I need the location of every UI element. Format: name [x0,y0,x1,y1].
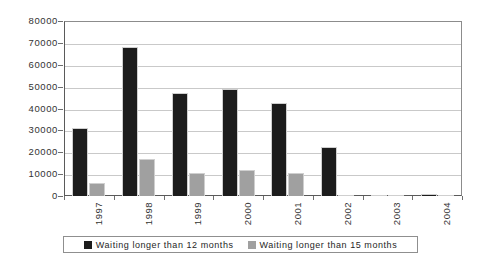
y-tick-label: 30000 [0,125,58,135]
bar-1997-series-1 [72,128,88,196]
x-tick-label-2001: 2001 [293,202,303,225]
x-tick-mark [164,196,165,200]
y-tick-label: 60000 [0,60,58,70]
bar-1998-series-1 [122,47,138,196]
x-tick-label-2002: 2002 [343,202,353,225]
y-tick-mark [58,43,63,44]
x-tick-label-1997: 1997 [94,202,104,225]
bar-2000-series-1 [222,89,238,196]
caption-fragment [6,261,226,267]
legend-entry-12-months[interactable]: Waiting longer than 12 months [84,240,234,250]
x-tick-mark [114,196,115,200]
x-tick-mark [363,196,364,200]
legend-label-15-months: Waiting longer than 15 months [260,240,398,250]
bar-2001-series-1 [271,103,287,196]
y-tick-mark [58,21,63,22]
bar-1999-series-2 [189,173,205,196]
bar-chart-figure: 0100002000030000400005000060000700008000… [0,0,477,268]
x-tick-mark [313,196,314,200]
x-tick-mark [412,196,413,200]
y-tick-mark [58,196,63,197]
legend-label-12-months: Waiting longer than 12 months [96,240,234,250]
x-tick-label-1998: 1998 [144,202,154,225]
legend-swatch-grey-icon [248,241,256,249]
chart-legend: Waiting longer than 12 months Waiting lo… [63,236,418,253]
y-tick-label: 40000 [0,104,58,114]
y-tick-mark [58,109,63,110]
x-tick-label-1999: 1999 [193,202,203,225]
y-axis: 0100002000030000400005000060000700008000… [0,0,58,210]
legend-entry-15-months[interactable]: Waiting longer than 15 months [248,240,398,250]
bars-layer [64,21,462,196]
legend-swatch-black-icon [84,241,92,249]
y-tick-mark [58,87,63,88]
bar-1999-series-1 [172,93,188,196]
y-tick-label: 50000 [0,82,58,92]
x-tick-mark [263,196,264,200]
y-tick-label: 20000 [0,147,58,157]
y-tick-label: 10000 [0,169,58,179]
y-tick-mark [58,174,63,175]
x-tick-label-2004: 2004 [442,202,452,225]
x-tick-mark [213,196,214,200]
y-tick-label: 70000 [0,38,58,48]
x-tick-mark [64,196,65,200]
x-tick-mark [462,196,463,200]
bar-2000-series-2 [239,170,255,196]
bar-2002-series-1 [321,147,337,196]
y-tick-mark [58,65,63,66]
y-tick-label: 80000 [0,16,58,26]
bar-1997-series-2 [89,183,105,196]
x-axis: 19971998199920002001200220032004 [64,196,462,236]
y-tick-mark [58,152,63,153]
x-tick-label-2000: 2000 [243,202,253,225]
bar-1998-series-2 [139,159,155,196]
y-tick-mark [58,130,63,131]
y-tick-label: 0 [0,191,58,201]
x-tick-label-2003: 2003 [392,202,402,225]
bar-2001-series-2 [288,173,304,196]
